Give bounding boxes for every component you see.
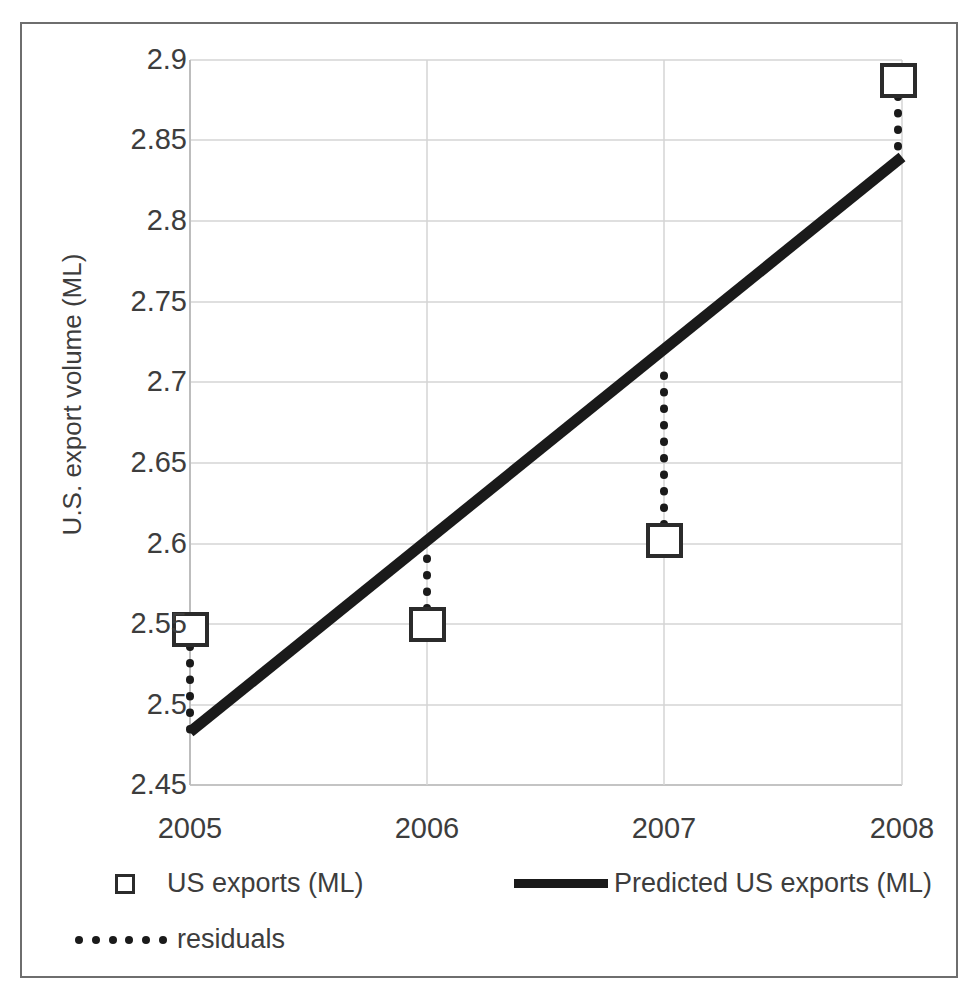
open-square-marker-icon xyxy=(115,874,135,894)
x-tick-label-2008: 2008 xyxy=(822,814,974,843)
x-tick-label-2006: 2006 xyxy=(347,814,507,843)
legend-label-us-exports: US exports (ML) xyxy=(167,868,364,899)
chart-legend: US exports (ML) Predicted US exports (ML… xyxy=(22,856,956,976)
legend-item-predicted-us-exports[interactable]: Predicted US exports (ML) xyxy=(514,868,932,899)
legend-item-us-exports[interactable]: US exports (ML) xyxy=(115,868,364,899)
chart-figure: U.S. export volume (ML) 2.9 2.85 2.8 2.7… xyxy=(20,22,958,978)
chart-plot-region: U.S. export volume (ML) 2.9 2.85 2.8 2.7… xyxy=(22,24,956,834)
x-axis-tick-labels: 2005 2006 2007 2008 xyxy=(22,24,956,834)
solid-line-marker-icon xyxy=(514,879,608,888)
x-tick-label-2005: 2005 xyxy=(110,814,270,843)
x-tick-label-2007: 2007 xyxy=(584,814,744,843)
dotted-line-marker-icon xyxy=(75,936,167,944)
legend-label-residuals: residuals xyxy=(177,924,285,955)
legend-item-residuals[interactable]: residuals xyxy=(75,924,285,955)
legend-label-predicted-us-exports: Predicted US exports (ML) xyxy=(614,868,932,899)
